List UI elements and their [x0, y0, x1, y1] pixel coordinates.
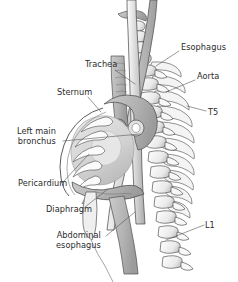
bronchus-lumen: [132, 124, 140, 133]
anatomy-figure: EsophagusAortaT5L1TracheaSternumLeft mai…: [0, 0, 238, 282]
label-trachea: Trachea: [85, 60, 117, 70]
label-esophagus: Esophagus: [181, 43, 226, 53]
label-t5: T5: [208, 108, 218, 118]
label-l1: L1: [205, 221, 215, 231]
label-pericardium: Pericardium: [18, 179, 67, 189]
label-diaphragm: Diaphragm: [46, 205, 92, 215]
label-aorta: Aorta: [197, 72, 219, 82]
label-left-main-bronchus: Left main bronchus: [17, 127, 56, 146]
label-abdominal-esophagus: Abdominal esophagus: [56, 231, 101, 250]
label-sternum: Sternum: [57, 88, 92, 98]
